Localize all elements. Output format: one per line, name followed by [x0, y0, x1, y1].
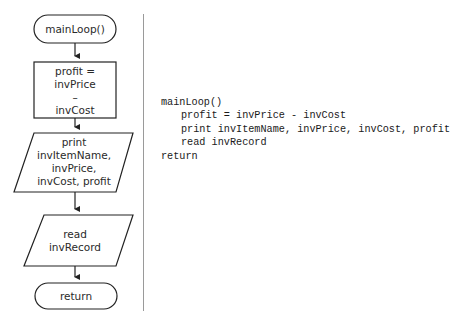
code-line: mainLoop(): [161, 96, 450, 109]
start-label: mainLoop(): [45, 23, 105, 35]
output-line: invItemName,: [37, 149, 111, 161]
input-line: invRecord: [49, 241, 101, 253]
start-terminal: mainLoop(): [34, 15, 116, 43]
output-line: invPrice,: [52, 162, 97, 174]
input-line: read: [63, 228, 87, 240]
input-parallelogram: read invRecord: [24, 215, 133, 266]
process-line: –: [72, 91, 77, 103]
code-line: return: [161, 150, 450, 163]
divider: [143, 14, 144, 311]
process-line: profit =: [55, 65, 95, 77]
end-label: return: [60, 290, 92, 302]
pseudocode-block: mainLoop()profit = invPrice - invCostpri…: [161, 96, 450, 163]
output-parallelogram: print invItemName, invPrice, invCost, pr…: [14, 133, 133, 192]
end-terminal: return: [35, 283, 117, 309]
output-line: print: [62, 136, 87, 148]
process-line: invPrice: [54, 78, 95, 90]
output-line: invCost, profit: [37, 175, 111, 187]
process-box: profit = invPrice – invCost: [34, 62, 116, 118]
code-line: read invRecord: [161, 136, 450, 149]
flowchart: mainLoop() profit = invPrice – invCost p…: [0, 0, 145, 320]
code-line: profit = invPrice - invCost: [161, 109, 450, 122]
process-line: invCost: [55, 104, 94, 116]
code-line: print invItemName, invPrice, invCost, pr…: [161, 123, 450, 136]
